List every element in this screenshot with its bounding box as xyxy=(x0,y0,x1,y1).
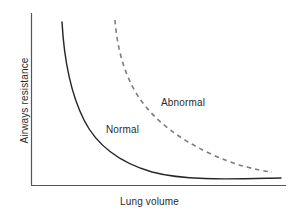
normal-series-annotation: Normal xyxy=(106,124,139,135)
y-axis-label: Airways resistance xyxy=(19,41,30,161)
x-axis-label: Lung volume xyxy=(120,196,179,207)
abnormal-curve xyxy=(115,20,272,172)
chart-figure: Airways resistance Lung volume Normal Ab… xyxy=(0,0,290,217)
abnormal-series-annotation: Abnormal xyxy=(161,97,205,108)
chart-plot-area xyxy=(0,0,290,217)
